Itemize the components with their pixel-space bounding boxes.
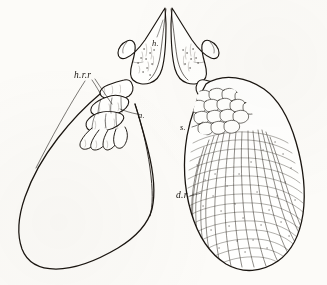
leader-hrr-short-a [92, 80, 101, 95]
right-humerus [171, 8, 219, 84]
ink-drawing [19, 8, 304, 270]
left-carpal-digit-complex [80, 80, 133, 150]
left-fin-membrane-outline [19, 94, 154, 269]
label-s: s. [180, 123, 186, 132]
label-hrr: h.r.r [74, 71, 91, 81]
label-a: a. [138, 111, 145, 120]
figure-root: h.r.r h. a. s. d.r [0, 0, 327, 285]
label-h: h. [152, 39, 159, 48]
label-dr: d.r [176, 191, 188, 201]
leader-hrr-long [36, 81, 85, 168]
anatomical-plate-illustration [0, 0, 327, 285]
leader-a [120, 109, 137, 114]
right-fin-membrane-scaled [185, 77, 304, 270]
